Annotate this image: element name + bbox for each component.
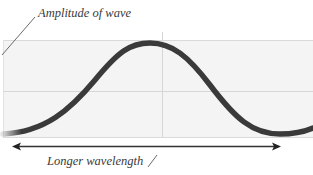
wavelength-leader-line — [148, 155, 157, 167]
wavelength-label: Longer wavelength — [47, 154, 143, 169]
amplitude-label: Amplitude of wave — [38, 6, 131, 21]
wave-figure — [0, 0, 313, 175]
wave-diagram: Amplitude of wave Longer wavelength — [0, 0, 313, 175]
